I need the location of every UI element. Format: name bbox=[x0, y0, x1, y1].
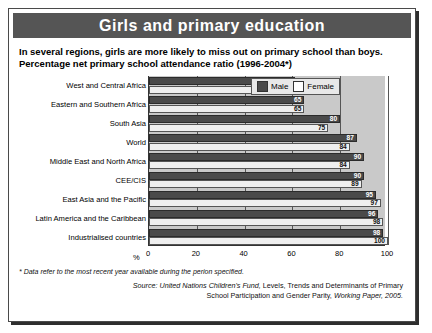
chart-legend: Male Female bbox=[251, 78, 340, 95]
x-axis-tick: 40 bbox=[239, 249, 247, 258]
poster-card: Girls and primary education In several r… bbox=[8, 8, 416, 322]
category-label: Industrialised countries bbox=[20, 232, 146, 241]
category-label: East Asia and the Pacific bbox=[20, 194, 146, 203]
bar-male: 90 bbox=[149, 153, 364, 161]
bar-value-label: 87 bbox=[347, 135, 354, 142]
bar-female: 84 bbox=[149, 161, 350, 169]
bar-female: 89 bbox=[149, 180, 362, 188]
source-title-part-1: Levels, Trends and Determinants of Prima… bbox=[263, 281, 403, 290]
bar-value-label: 95 bbox=[366, 191, 373, 198]
chart-row: West and Central Africa6155 bbox=[15, 76, 407, 95]
bar-value-label: 98 bbox=[373, 229, 380, 236]
legend-label-female: Female bbox=[307, 82, 334, 91]
bar-value-label: 80 bbox=[330, 116, 337, 123]
source-workingpaper: Working Paper, 2005. bbox=[334, 291, 403, 300]
x-axis: 020406080100 bbox=[148, 248, 385, 262]
category-label: Eastern and Southern Africa bbox=[20, 100, 146, 109]
bar-value-label: 84 bbox=[339, 143, 346, 150]
source-publisher: United Nations Children's Fund, bbox=[160, 281, 261, 290]
bar-male: 80 bbox=[149, 115, 340, 123]
x-axis-tick: 20 bbox=[192, 249, 200, 258]
bar-male: 96 bbox=[149, 210, 378, 218]
source-line-1: Source: United Nations Children's Fund, … bbox=[9, 281, 403, 291]
subtitle-block: In several regions, girls are more likel… bbox=[19, 46, 405, 70]
category-label: CEE/CIS bbox=[20, 175, 146, 184]
bar-value-label: 89 bbox=[351, 181, 358, 188]
bar-value-label: 75 bbox=[318, 124, 325, 131]
bar-value-label: 90 bbox=[354, 154, 361, 161]
bar-value-label: 90 bbox=[354, 173, 361, 180]
legend-swatch-female-icon bbox=[293, 81, 304, 92]
chart-row: World8784 bbox=[15, 133, 407, 152]
chart-container: West and Central Africa6155Eastern and S… bbox=[15, 76, 407, 262]
subtitle-line-2: Percentage net primary school attendance… bbox=[19, 58, 405, 70]
chart-row: Latin America and the Caribbean9698 bbox=[15, 208, 407, 227]
legend-label-male: Male bbox=[271, 82, 288, 91]
source-title-part-2: School Participation and Gender Parity, bbox=[207, 291, 332, 300]
bar-female: 84 bbox=[149, 143, 350, 151]
title-bar: Girls and primary education bbox=[13, 13, 411, 38]
x-axis-unit: % bbox=[133, 253, 140, 262]
bar-value-label: 98 bbox=[373, 219, 380, 226]
bar-value-label: 65 bbox=[294, 105, 301, 112]
bar-value-label: 100 bbox=[374, 238, 385, 245]
bar-female: 100 bbox=[149, 237, 388, 245]
bar-male: 65 bbox=[149, 96, 304, 104]
category-label: Latin America and the Caribbean bbox=[20, 213, 146, 222]
chart-row: Eastern and Southern Africa6565 bbox=[15, 95, 407, 114]
category-label: Middle East and North Africa bbox=[20, 156, 146, 165]
footnote: * Data refer to the most recent year ava… bbox=[19, 268, 415, 275]
bar-female: 97 bbox=[149, 199, 381, 207]
category-label: South Asia bbox=[20, 119, 146, 128]
source-citation: Source: United Nations Children's Fund, … bbox=[9, 281, 403, 301]
chart-row: Middle East and North Africa9084 bbox=[15, 152, 407, 171]
category-label: West and Central Africa bbox=[20, 81, 146, 90]
page-title: Girls and primary education bbox=[99, 17, 325, 35]
chart-row: East Asia and the Pacific9597 bbox=[15, 189, 407, 208]
legend-item-female: Female bbox=[293, 81, 334, 92]
legend-swatch-male-icon bbox=[257, 81, 268, 92]
source-line-2: School Participation and Gender Parity, … bbox=[9, 291, 403, 301]
x-axis-tick: 0 bbox=[146, 249, 150, 258]
bar-value-label: 84 bbox=[339, 162, 346, 169]
x-axis-tick: 80 bbox=[335, 249, 343, 258]
bar-value-label: 96 bbox=[368, 210, 375, 217]
bar-rows: West and Central Africa6155Eastern and S… bbox=[15, 76, 407, 246]
bar-male: 95 bbox=[149, 191, 376, 199]
bar-value-label: 97 bbox=[370, 200, 377, 207]
source-prefix: Source: bbox=[133, 281, 158, 290]
chart-row: CEE/CIS9089 bbox=[15, 170, 407, 189]
bar-female: 65 bbox=[149, 105, 304, 113]
bar-male: 90 bbox=[149, 172, 364, 180]
bar-value-label: 65 bbox=[294, 97, 301, 104]
legend-item-male: Male bbox=[257, 81, 288, 92]
subtitle-line-1: In several regions, girls are more likel… bbox=[19, 46, 405, 58]
bar-male: 87 bbox=[149, 134, 357, 142]
chart-row: South Asia8075 bbox=[15, 114, 407, 133]
category-label: World bbox=[20, 138, 146, 147]
chart-row: Industrialised countries98100 bbox=[15, 227, 407, 246]
x-axis-tick: 100 bbox=[381, 249, 394, 258]
x-axis-tick: 60 bbox=[287, 249, 295, 258]
bar-female: 75 bbox=[149, 124, 328, 132]
bar-male: 98 bbox=[149, 229, 383, 237]
bar-female: 98 bbox=[149, 218, 383, 226]
